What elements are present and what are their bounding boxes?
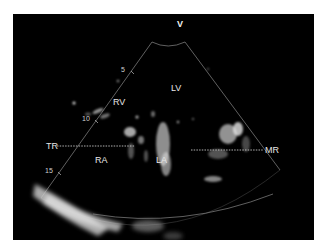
- ultrasound-image: V 5 10 15 RV LV RA LA TR MR: [13, 14, 314, 240]
- label-lv: LV: [171, 84, 181, 93]
- depth-marker-15: 15: [45, 167, 53, 174]
- depth-marker-5: 5: [121, 66, 125, 73]
- echo-pericardial-line: [93, 194, 273, 219]
- label-la: LA: [156, 156, 167, 165]
- label-rv: RV: [113, 98, 125, 107]
- annotation-mr: MR: [265, 146, 279, 155]
- sector-left-edge: [41, 42, 152, 198]
- echo-bottom-wall: [33, 184, 183, 240]
- sector-apex-arc: [152, 42, 185, 46]
- annotation-tr: TR: [46, 142, 58, 151]
- echo-sector: [13, 14, 314, 240]
- orientation-marker: V: [177, 19, 183, 29]
- label-ra: RA: [95, 156, 108, 165]
- depth-marker-10: 10: [82, 115, 90, 122]
